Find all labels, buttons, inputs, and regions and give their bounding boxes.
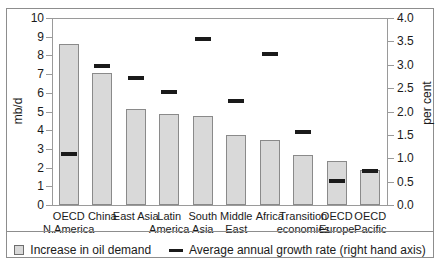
y-right-tick-5 <box>388 88 394 89</box>
y-left-label-7: 7 <box>37 68 44 80</box>
growth-marker-5 <box>228 99 244 103</box>
y-axis-left-title: mb/d <box>11 85 25 137</box>
line-swatch-icon <box>169 249 183 252</box>
chart-legend: Increase in oil demand Average annual gr… <box>0 243 440 257</box>
plot-area <box>52 18 387 205</box>
y-right-tick-6 <box>388 65 394 66</box>
y-right-tick-8 <box>388 18 394 19</box>
y-left-label-8: 8 <box>37 49 44 61</box>
growth-marker-7 <box>295 130 311 134</box>
y-right-label-3: 1.5 <box>397 129 414 141</box>
y-right-label-6: 3.0 <box>397 59 414 71</box>
y-right-label-5: 2.5 <box>397 82 414 94</box>
y-right-tick-7 <box>388 41 394 42</box>
y-left-tick-1 <box>46 186 52 187</box>
x-label-line2-9: Pacific <box>336 223 404 236</box>
y-left-tick-6 <box>46 93 52 94</box>
y-right-tick-4 <box>388 112 394 113</box>
bar-7 <box>293 155 313 205</box>
y-right-label-7: 3.5 <box>397 35 414 47</box>
x-label-line2-5: East <box>202 223 270 236</box>
chart-figure: mb/d per cent 012345678910 0.00.51.01.52… <box>0 0 440 266</box>
y-left-label-10: 10 <box>31 12 44 24</box>
bar-1 <box>92 73 112 205</box>
y-left-label-4: 4 <box>37 124 44 136</box>
bar-9 <box>360 170 380 205</box>
y-left-label-3: 3 <box>37 143 44 155</box>
legend-item-oil-demand: Increase in oil demand <box>14 243 151 257</box>
growth-marker-2 <box>128 76 144 80</box>
y-left-label-9: 9 <box>37 31 44 43</box>
y-left-label-1: 1 <box>37 180 44 192</box>
growth-marker-0 <box>61 152 77 156</box>
bar-6 <box>260 140 280 205</box>
y-right-tick-3 <box>388 135 394 136</box>
growth-marker-3 <box>161 90 177 94</box>
bar-0 <box>59 44 79 205</box>
x-label-line1-9: OECD <box>336 210 404 223</box>
y-left-tick-9 <box>46 37 52 38</box>
legend-item-growth-rate: Average annual growth rate (right hand a… <box>169 243 426 257</box>
y-right-label-1: 0.5 <box>397 176 414 188</box>
y-right-label-2: 1.0 <box>397 152 414 164</box>
bar-2 <box>126 109 146 205</box>
plot-top-rule <box>52 18 387 19</box>
legend-label-oil-demand: Increase in oil demand <box>30 243 151 257</box>
y-left-label-2: 2 <box>37 162 44 174</box>
y-right-label-8: 4.0 <box>397 12 414 24</box>
y-left-tick-0 <box>46 205 52 206</box>
y-left-tick-10 <box>46 18 52 19</box>
growth-marker-1 <box>94 64 110 68</box>
y-right-tick-2 <box>388 158 394 159</box>
growth-marker-6 <box>262 52 278 56</box>
x-label-line2-0: N.America <box>35 223 103 236</box>
growth-marker-9 <box>362 169 378 173</box>
bar-3 <box>159 114 179 205</box>
y-left-label-6: 6 <box>37 87 44 99</box>
x-axis-line <box>52 205 388 206</box>
y-left-tick-2 <box>46 168 52 169</box>
bar-4 <box>193 116 213 205</box>
y-axis-right-title: per cent <box>420 76 434 130</box>
y-left-tick-7 <box>46 74 52 75</box>
y-left-tick-4 <box>46 130 52 131</box>
growth-marker-4 <box>195 37 211 41</box>
bar-swatch-icon <box>14 245 24 255</box>
legend-divider <box>7 231 433 232</box>
bar-8 <box>327 161 347 205</box>
y-left-tick-3 <box>46 149 52 150</box>
legend-label-growth-rate: Average annual growth rate (right hand a… <box>189 243 426 257</box>
y-left-tick-5 <box>46 112 52 113</box>
bar-5 <box>226 135 246 205</box>
growth-marker-8 <box>329 179 345 183</box>
y-left-tick-8 <box>46 55 52 56</box>
y-left-label-5: 5 <box>37 106 44 118</box>
y-right-label-4: 2.0 <box>397 106 414 118</box>
y-right-tick-1 <box>388 182 394 183</box>
y-right-tick-0 <box>388 205 394 206</box>
